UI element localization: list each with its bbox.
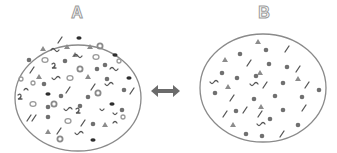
- double-arrow-icon: [151, 85, 180, 97]
- panel-a: [15, 36, 141, 151]
- container-a-outline: [15, 45, 141, 151]
- panel-b: [200, 34, 326, 142]
- diagram-canvas: [0, 0, 337, 153]
